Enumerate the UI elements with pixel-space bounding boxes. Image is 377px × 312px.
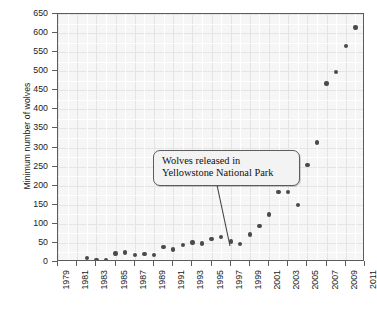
gridline-vertical-minor xyxy=(202,14,203,260)
plot-area xyxy=(57,13,364,261)
y-axis-tick xyxy=(52,166,57,167)
x-axis-tick xyxy=(191,261,192,266)
y-axis-tick xyxy=(52,185,57,186)
y-axis-label: 0 xyxy=(8,256,48,266)
gridline-vertical-minor xyxy=(221,14,222,260)
x-axis-label: 1993 xyxy=(195,270,205,290)
x-axis-tick xyxy=(287,261,288,266)
x-axis-tick xyxy=(172,261,173,266)
x-axis-label: 1981 xyxy=(80,270,90,290)
x-axis-label: 2011 xyxy=(368,270,377,289)
annotation-line-1: Wolves released in xyxy=(162,155,292,167)
y-axis-tick xyxy=(52,108,57,109)
y-axis-label: 250 xyxy=(8,161,48,171)
y-axis-label: 600 xyxy=(8,27,48,37)
x-axis-label: 1997 xyxy=(234,270,244,290)
y-axis-label: 350 xyxy=(8,122,48,132)
gridline-vertical-minor xyxy=(68,14,69,260)
y-axis-tick xyxy=(52,89,57,90)
data-point xyxy=(190,240,194,244)
x-axis-label: 2007 xyxy=(330,270,340,290)
data-point xyxy=(267,212,271,216)
data-point xyxy=(142,252,146,256)
data-point xyxy=(248,232,252,236)
x-axis-tick xyxy=(326,261,327,266)
data-point xyxy=(200,241,204,245)
x-axis-tick xyxy=(76,261,77,266)
x-axis-tick xyxy=(95,261,96,266)
y-axis-label: 500 xyxy=(8,65,48,75)
x-axis-label: 2005 xyxy=(310,270,320,290)
y-axis-tick xyxy=(52,127,57,128)
x-axis-label: 1983 xyxy=(99,270,109,290)
data-point xyxy=(315,140,319,144)
data-point xyxy=(296,203,300,207)
gridline-vertical-minor xyxy=(317,14,318,260)
y-axis-tick xyxy=(52,13,57,14)
data-point xyxy=(85,256,89,260)
y-axis-tick xyxy=(52,70,57,71)
gridline-vertical-minor xyxy=(240,14,241,260)
x-axis-tick xyxy=(249,261,250,266)
x-axis-tick xyxy=(115,261,116,266)
scatter-chart: Minimum number of wolves 050100150200250… xyxy=(0,0,377,312)
gridline-vertical xyxy=(231,14,232,260)
gridline-vertical xyxy=(269,14,270,260)
y-axis-tick xyxy=(52,51,57,52)
x-axis-tick xyxy=(211,261,212,266)
gridline-vertical xyxy=(327,14,328,260)
data-point xyxy=(334,70,338,74)
x-axis-tick xyxy=(153,261,154,266)
gridline-vertical xyxy=(288,14,289,260)
gridline-vertical-minor xyxy=(298,14,299,260)
x-axis-tick xyxy=(230,261,231,266)
gridline-vertical-minor xyxy=(355,14,356,260)
y-axis-tick xyxy=(52,204,57,205)
gridline-vertical xyxy=(192,14,193,260)
data-point xyxy=(229,239,233,243)
gridline-vertical xyxy=(116,14,117,260)
gridline-vertical xyxy=(250,14,251,260)
gridline-vertical-minor xyxy=(125,14,126,260)
gridline-vertical xyxy=(346,14,347,260)
data-point xyxy=(209,237,213,241)
annotation-callout: Wolves released in Yellowstone National … xyxy=(153,150,300,186)
data-point xyxy=(344,44,348,48)
data-point xyxy=(104,258,108,261)
annotation-line-2: Yellowstone National Park xyxy=(162,167,292,179)
gridline-vertical-minor xyxy=(144,14,145,260)
y-axis-label: 550 xyxy=(8,46,48,56)
x-axis-tick xyxy=(364,261,365,266)
gridline-vertical xyxy=(212,14,213,260)
x-axis-tick xyxy=(268,261,269,266)
x-axis-label: 2003 xyxy=(291,270,301,290)
y-axis-label: 150 xyxy=(8,199,48,209)
x-axis-tick xyxy=(345,261,346,266)
data-point xyxy=(286,190,290,194)
gridline-vertical-minor xyxy=(183,14,184,260)
gridline-vertical xyxy=(58,14,59,260)
gridline-vertical xyxy=(307,14,308,260)
gridline-vertical-minor xyxy=(164,14,165,260)
x-axis-tick xyxy=(134,261,135,266)
y-axis-label: 200 xyxy=(8,180,48,190)
gridline-vertical-minor xyxy=(336,14,337,260)
y-axis-tick xyxy=(52,147,57,148)
y-axis-tick xyxy=(52,242,57,243)
x-axis-label: 1995 xyxy=(215,270,225,290)
data-point xyxy=(238,242,242,246)
data-point xyxy=(305,163,309,167)
data-point xyxy=(353,25,357,29)
y-axis-tick xyxy=(52,223,57,224)
data-point xyxy=(123,250,127,254)
gridline-vertical xyxy=(154,14,155,260)
gridline-vertical xyxy=(96,14,97,260)
y-axis-tick xyxy=(52,32,57,33)
x-axis-label: 1985 xyxy=(119,270,129,290)
x-axis-label: 1987 xyxy=(138,270,148,290)
y-axis-label: 400 xyxy=(8,103,48,113)
data-point xyxy=(181,243,185,247)
data-point xyxy=(161,245,165,249)
x-axis-label: 1999 xyxy=(253,270,263,290)
gridline-vertical xyxy=(135,14,136,260)
